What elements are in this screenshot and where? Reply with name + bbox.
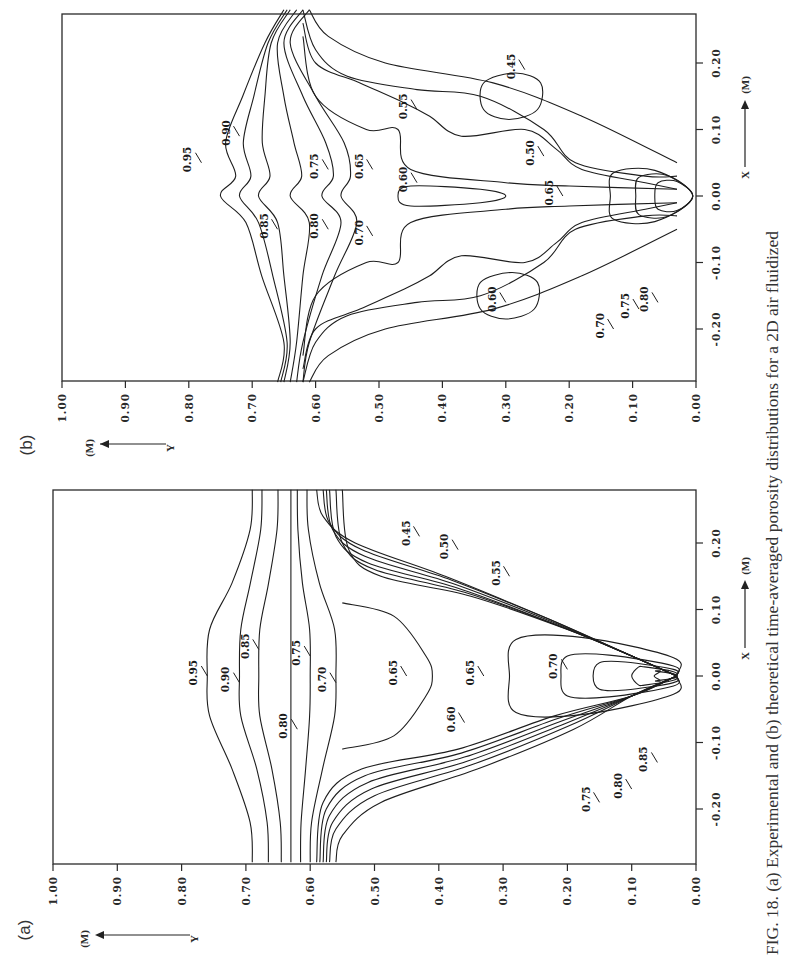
- contour-line: [297, 490, 310, 862]
- y-tick-label: 0.30: [500, 393, 512, 423]
- x-axis-arrow-a: X (M): [739, 557, 752, 660]
- y-tick-label: 0.00: [690, 393, 702, 423]
- y-axis-ticks-b: 0.000.100.200.300.400.500.600.700.800.90…: [56, 381, 702, 423]
- y-tick-label: 0.40: [433, 876, 445, 906]
- contour-line: [303, 10, 677, 177]
- contour-label: 0.55: [490, 560, 502, 586]
- y-tick-label: 0.70: [246, 393, 258, 423]
- y-axis-name-b: Y: [164, 444, 176, 452]
- x-tick-label: -0.10: [710, 725, 722, 760]
- x-tick-label: -0.10: [710, 245, 722, 280]
- contour-line: [320, 676, 677, 862]
- contour-line: [239, 490, 268, 862]
- contour-line: [508, 635, 681, 717]
- contour-line: [336, 490, 677, 676]
- contour-line: [655, 180, 693, 212]
- x-tick-label: 0.10: [710, 595, 722, 625]
- arrow-head-icon: [741, 100, 749, 109]
- y-axis-unit-b: (M): [83, 439, 96, 457]
- contour-line: [258, 490, 281, 862]
- contour-label: 0.70: [353, 220, 365, 246]
- y-tick-label: 0.10: [627, 393, 639, 423]
- y-tick-label: 0.40: [436, 393, 448, 423]
- x-tick-label: 0.00: [710, 181, 722, 211]
- x-axis-unit-a: (M): [739, 557, 752, 575]
- y-tick-label: 0.80: [176, 876, 188, 906]
- contour-line: [398, 186, 506, 206]
- x-tick-label: 0.00: [710, 661, 722, 691]
- contour-label: 0.75: [308, 153, 320, 179]
- figure-caption: FIG. 18. (a) Experimental and (b) theore…: [762, 231, 782, 955]
- contour-label: 0.75: [619, 293, 631, 319]
- y-tick-label: 1.00: [56, 393, 68, 423]
- contour-label: 0.70: [547, 653, 559, 679]
- contour-line: [323, 676, 677, 862]
- y-axis-ticks-a: 0.000.100.200.300.400.500.600.700.800.90…: [47, 864, 702, 906]
- contour-label: 0.80: [277, 713, 289, 739]
- contour-line: [654, 671, 677, 682]
- contour-label: 0.80: [638, 286, 650, 312]
- y-tick-label: 0.20: [561, 876, 573, 906]
- arrow-head-icon: [100, 440, 109, 448]
- contour-label: 0.60: [445, 707, 457, 733]
- y-tick-label: 0.60: [304, 876, 316, 906]
- contour-line: [284, 10, 341, 382]
- y-tick-label: 0.10: [626, 876, 638, 906]
- figure-18: 0.950.900.850.800.750.700.650.600.550.45…: [0, 0, 791, 963]
- y-tick-label: 0.90: [111, 876, 123, 906]
- x-axis-name-b: X: [739, 171, 751, 179]
- contour-line: [290, 10, 357, 382]
- contour-label: 0.65: [464, 660, 476, 686]
- y-tick-label: 0.00: [690, 876, 702, 906]
- contour-line: [561, 654, 680, 699]
- contour-line: [258, 10, 290, 382]
- contour-label: 0.70: [316, 667, 328, 693]
- contour-label: 0.80: [612, 773, 624, 799]
- x-tick-label: -0.20: [710, 792, 722, 827]
- contour-line: [330, 490, 677, 676]
- x-tick-label: 0.10: [710, 115, 722, 145]
- y-axis-name-a: Y: [188, 935, 200, 943]
- y-tick-label: 0.30: [497, 876, 509, 906]
- contour-line: [220, 10, 284, 382]
- y-axis-unit-a: (M): [78, 930, 91, 948]
- contour-label: 0.55: [397, 94, 409, 120]
- contour-label: 0.65: [543, 180, 555, 206]
- contour-line: [330, 676, 677, 862]
- y-tick-label: 0.50: [373, 393, 385, 423]
- y-tick-label: 0.70: [240, 876, 252, 906]
- contour-label: 0.45: [400, 520, 412, 546]
- contour-line: [317, 676, 677, 862]
- panel-label-b: (b): [17, 435, 36, 456]
- plot-frame-a: [53, 490, 696, 864]
- contour-line: [326, 676, 676, 862]
- contour-label: 0.85: [637, 746, 649, 772]
- contour-label: 0.65: [353, 153, 365, 179]
- y-tick-label: 1.00: [47, 876, 59, 906]
- x-tick-label: 0.20: [710, 48, 722, 78]
- y-tick-label: 0.20: [563, 393, 575, 423]
- y-tick-label: 0.80: [183, 393, 195, 423]
- contour-label: 0.95: [187, 660, 199, 686]
- y-tick-label: 0.50: [369, 876, 381, 906]
- contour-label: 0.50: [438, 534, 450, 560]
- contour-label: 0.85: [239, 633, 251, 659]
- y-axis-arrow-a: (M) Y: [78, 930, 200, 948]
- contour-label: 0.75: [580, 786, 592, 812]
- contour-lines-b: [220, 10, 692, 382]
- y-tick-label: 0.60: [310, 393, 322, 423]
- contour-labels-b: 0.950.900.850.800.750.700.650.600.550.45…: [181, 54, 657, 339]
- panel-label-a: (a): [15, 920, 34, 941]
- contour-label: 0.50: [524, 140, 536, 166]
- panel-a-experimental: 0.950.900.850.800.750.700.650.600.650.70…: [15, 490, 752, 948]
- panel-b-theoretical: 0.950.900.850.800.750.700.650.600.550.45…: [17, 10, 752, 457]
- x-axis-arrow-b: X (M): [739, 76, 752, 179]
- contour-label: 0.90: [220, 120, 232, 146]
- y-tick-label: 0.90: [119, 393, 131, 423]
- contour-line: [593, 661, 678, 691]
- y-axis-arrow-b: (M) Y: [83, 439, 176, 457]
- contour-label: 0.70: [594, 313, 606, 339]
- arrow-head-icon: [95, 931, 104, 939]
- arrow-head-icon: [741, 580, 749, 589]
- contour-label: 0.60: [397, 167, 409, 193]
